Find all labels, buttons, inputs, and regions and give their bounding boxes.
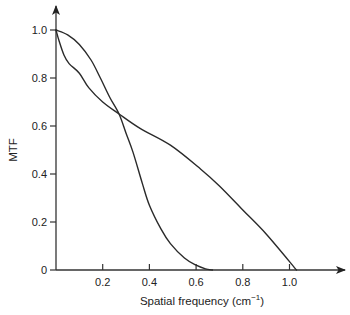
x-tick-label: 1.0 <box>282 276 297 288</box>
x-tick-label: 0.2 <box>95 276 110 288</box>
y-tick-label: 0.6 <box>32 120 47 132</box>
y-tick-label: 0.8 <box>32 72 47 84</box>
y-axis-label: MTF <box>7 138 19 162</box>
series-curve-steep <box>56 30 212 270</box>
x-tick-label: 0.8 <box>235 276 250 288</box>
x-tick-label: 0.6 <box>188 276 203 288</box>
y-tick-label: 1.0 <box>32 24 47 36</box>
x-tick-label: 0.4 <box>142 276 157 288</box>
x-axis-label: Spatial frequency (cm−1) <box>140 293 264 307</box>
x-axis-label-main: Spatial frequency (cm <box>140 295 251 307</box>
y-tick-label: 0.2 <box>32 216 47 228</box>
y-tick-label: 0 <box>41 264 47 276</box>
x-axis-label-close: ) <box>260 295 264 307</box>
y-tick-label: 0.4 <box>32 168 47 180</box>
series-curve-gentle <box>56 30 297 270</box>
series-layer <box>56 30 297 270</box>
x-axis-ticks: 0.20.40.60.81.0 <box>95 264 297 288</box>
y-axis-ticks: 00.20.40.60.81.0 <box>32 24 56 276</box>
mtf-chart: 0.20.40.60.81.0 00.20.40.60.81.0 MTF Spa… <box>0 0 350 315</box>
